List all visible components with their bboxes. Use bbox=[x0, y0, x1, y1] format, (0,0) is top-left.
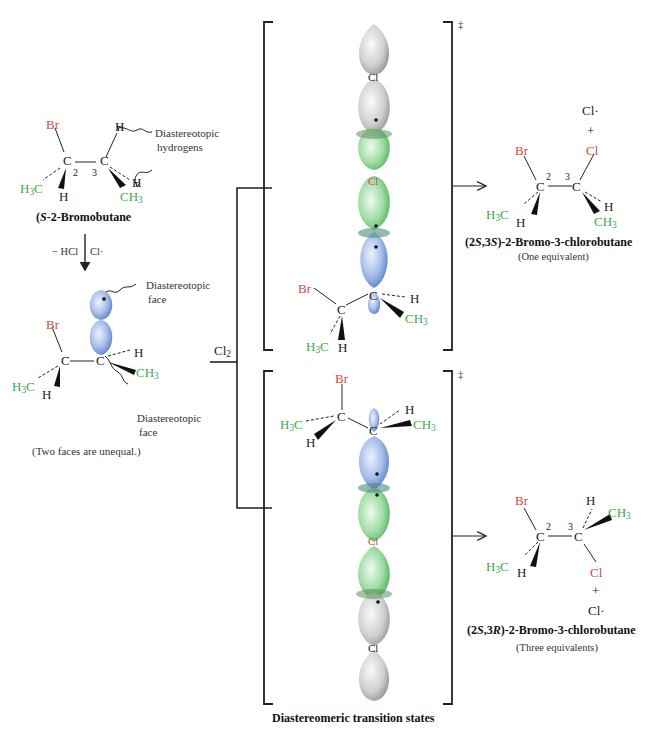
annotation-bottom-face-1: Diastereotopic bbox=[137, 413, 201, 424]
atom-br: Br bbox=[46, 118, 59, 131]
atom-h-right: H bbox=[132, 176, 141, 189]
atom-c: C bbox=[337, 410, 346, 423]
atom-c-radical: C bbox=[369, 289, 378, 302]
atom-h3c: H3C bbox=[486, 208, 509, 224]
product-bottom-name: (2S,3R)-2-Bromo-3-chlorobutane bbox=[467, 624, 636, 636]
ts-top-orbitals bbox=[356, 24, 392, 314]
byproduct-cl-radical: Cl· bbox=[588, 604, 605, 617]
atom-c3: C bbox=[100, 154, 109, 167]
wedge-bond bbox=[531, 192, 540, 215]
radical-bonds bbox=[38, 284, 136, 384]
annotation-top-face-2: face bbox=[148, 294, 166, 305]
atom-c2: C bbox=[63, 154, 72, 167]
atom-h-right: H bbox=[604, 200, 613, 213]
product-top-name: (2S,3S)-2-Bromo-3-chlorobutane bbox=[465, 236, 632, 248]
atom-h-left: H bbox=[517, 566, 526, 579]
atom-h3c: H3C bbox=[20, 182, 43, 198]
atom-cl: Cl bbox=[590, 566, 602, 579]
atom-cl: Cl bbox=[586, 144, 598, 157]
atom-h3c: H3C bbox=[12, 380, 35, 396]
locant-2: 2 bbox=[546, 522, 551, 532]
wedge-bond bbox=[380, 298, 404, 318]
plus-sign: + bbox=[592, 584, 599, 597]
annotation-diastereotopic-hydrogens-2: hydrogens bbox=[157, 142, 203, 153]
product-top-equivalents: (One equivalent) bbox=[518, 252, 589, 263]
product-bottom-bonds bbox=[524, 508, 596, 562]
wedge-bond bbox=[314, 420, 336, 440]
atom-c2: C bbox=[536, 180, 545, 193]
atom-ch3: CH3 bbox=[608, 506, 631, 522]
atom-br: Br bbox=[298, 282, 311, 295]
ts-bottom-cl-2: Cl bbox=[368, 643, 378, 654]
locant-2: 2 bbox=[546, 172, 551, 182]
annotation-top-face-1: Diastereotopic bbox=[146, 280, 210, 291]
plus-sign: + bbox=[587, 124, 594, 137]
wedge-bond bbox=[530, 542, 540, 567]
locant-3: 3 bbox=[565, 172, 570, 182]
atom-c: C bbox=[61, 354, 70, 367]
ts-caption: Diastereomeric transition states bbox=[272, 712, 434, 724]
atom-h-right: H bbox=[410, 292, 419, 305]
ts-bottom-cl-1: Cl bbox=[368, 536, 378, 547]
annotation-bottom-face-2: face bbox=[139, 427, 157, 438]
atom-br: Br bbox=[46, 318, 59, 331]
locant-2: 2 bbox=[73, 168, 78, 178]
atom-ch3: CH3 bbox=[405, 312, 428, 328]
atom-h-left: H bbox=[42, 388, 51, 401]
ts-top-bonds bbox=[314, 288, 405, 334]
atom-h-left: H bbox=[59, 190, 68, 203]
product-bottom-equivalents: (Three equivalents) bbox=[516, 643, 598, 654]
atom-h-right: H bbox=[405, 403, 414, 416]
ts-brackets bbox=[264, 22, 452, 704]
atom-ch3: CH3 bbox=[413, 418, 436, 434]
ts-top-cl-2: Cl bbox=[368, 176, 378, 187]
wedge-bond bbox=[58, 168, 66, 189]
atom-br: Br bbox=[335, 372, 348, 385]
atom-h-left: H bbox=[516, 216, 525, 229]
atom-br: Br bbox=[515, 144, 528, 157]
ts-top-cl-1: Cl bbox=[368, 72, 378, 83]
step1-minus-hcl: − HCl bbox=[52, 247, 78, 258]
atom-c3: C bbox=[574, 530, 583, 543]
locant-3: 3 bbox=[92, 168, 97, 178]
wedge-bond bbox=[54, 366, 60, 387]
atom-c2: C bbox=[536, 530, 545, 543]
atom-ch3: CH3 bbox=[120, 190, 143, 206]
atom-c-radical: C bbox=[369, 424, 378, 437]
atom-h-right: H bbox=[134, 346, 143, 359]
reagent-cl2: Cl2 bbox=[214, 344, 231, 360]
annotation-diastereotopic-hydrogens-1: Diastereotopic bbox=[155, 128, 219, 139]
atom-h-left: H bbox=[338, 341, 347, 354]
atom-h-top: H bbox=[115, 120, 124, 133]
atom-h3c: H3C bbox=[486, 560, 509, 576]
atom-br: Br bbox=[515, 494, 528, 507]
ts-top-double-dagger: ‡ bbox=[458, 20, 463, 31]
atom-c-radical: C bbox=[96, 354, 105, 367]
starting-material-name: (S-2-Bromobutane bbox=[36, 211, 131, 223]
byproduct-cl-radical: Cl· bbox=[582, 104, 599, 117]
step1-cl-radical: Cl· bbox=[90, 247, 103, 258]
radical-caption: (Two faces are unequal.) bbox=[32, 446, 141, 457]
locant-3: 3 bbox=[568, 522, 573, 532]
wedge-bond bbox=[338, 316, 345, 340]
atom-h3c: H3C bbox=[280, 418, 303, 434]
atom-ch3: CH3 bbox=[594, 215, 617, 231]
ts-bottom-bonds bbox=[306, 384, 400, 428]
atom-ch3: CH3 bbox=[136, 366, 159, 382]
atom-h-left: H bbox=[306, 436, 315, 449]
atom-c3: C bbox=[572, 180, 581, 193]
ts-bottom-orbitals bbox=[356, 408, 392, 701]
ts-bottom-double-dagger: ‡ bbox=[458, 370, 463, 381]
atom-h-top: H bbox=[586, 494, 595, 507]
wedge-bond bbox=[108, 362, 136, 375]
atom-h3c: H3C bbox=[306, 340, 329, 356]
radical-orbital bbox=[90, 290, 113, 355]
wedge-bond bbox=[108, 168, 126, 188]
atom-c: C bbox=[337, 303, 346, 316]
